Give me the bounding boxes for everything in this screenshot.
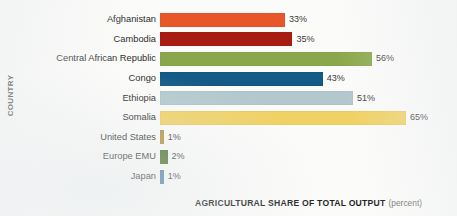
- bar-value-label: 33%: [289, 15, 307, 24]
- category-label: Afghanistan: [20, 15, 156, 24]
- bar: [160, 13, 285, 27]
- bar-group: 65%: [160, 111, 428, 125]
- bar-group: 2%: [160, 150, 185, 164]
- category-label: Somalia: [20, 113, 156, 122]
- bar: [160, 72, 323, 86]
- chart-row: Ethiopia51%: [0, 88, 457, 108]
- chart-row: Japan1%: [0, 167, 457, 187]
- bar-group: 1%: [160, 170, 181, 184]
- bar: [160, 150, 168, 164]
- chart-row: United States1%: [0, 128, 457, 148]
- bar-group: 33%: [160, 13, 307, 27]
- chart-row: Central African Republic56%: [0, 49, 457, 69]
- bar-group: 43%: [160, 72, 345, 86]
- bar-value-label: 35%: [296, 35, 314, 44]
- bar-value-label: 51%: [357, 94, 375, 103]
- x-axis-title: AGRICULTURAL SHARE OF TOTAL OUTPUT(perce…: [160, 192, 457, 210]
- category-label: Ethiopia: [20, 94, 156, 103]
- category-label: Europe EMU: [20, 152, 156, 161]
- x-axis-title-label: AGRICULTURAL SHARE OF TOTAL OUTPUT: [195, 198, 386, 208]
- category-label: Japan: [20, 172, 156, 181]
- chart-row: Europe EMU2%: [0, 147, 457, 167]
- category-label: Central African Republic: [20, 54, 156, 63]
- bar-group: 56%: [160, 52, 394, 66]
- bar-group: 35%: [160, 32, 314, 46]
- bar-value-label: 1%: [168, 172, 181, 181]
- chart-row: Somalia65%: [0, 108, 457, 128]
- bar: [160, 52, 372, 66]
- bar: [160, 130, 164, 144]
- bar-group: 1%: [160, 130, 181, 144]
- bar-value-label: 56%: [376, 54, 394, 63]
- x-axis-title-unit: (percent): [389, 198, 423, 208]
- bar: [160, 170, 164, 184]
- chart-row: Cambodia35%: [0, 30, 457, 50]
- bar-chart: COUNTRY Afghanistan33%Cambodia35%Central…: [0, 0, 457, 216]
- bar: [160, 111, 406, 125]
- chart-rows: Afghanistan33%Cambodia35%Central African…: [0, 10, 457, 186]
- category-label: United States: [20, 133, 156, 142]
- bar-group: 51%: [160, 91, 375, 105]
- bar: [160, 91, 353, 105]
- category-label: Cambodia: [20, 35, 156, 44]
- bar-value-label: 43%: [327, 74, 345, 83]
- chart-row: Afghanistan33%: [0, 10, 457, 30]
- category-label: Congo: [20, 74, 156, 83]
- bar-value-label: 2%: [172, 152, 185, 161]
- chart-row: Congo43%: [0, 69, 457, 89]
- bar: [160, 32, 292, 46]
- bar-value-label: 1%: [168, 133, 181, 142]
- bar-value-label: 65%: [410, 113, 428, 122]
